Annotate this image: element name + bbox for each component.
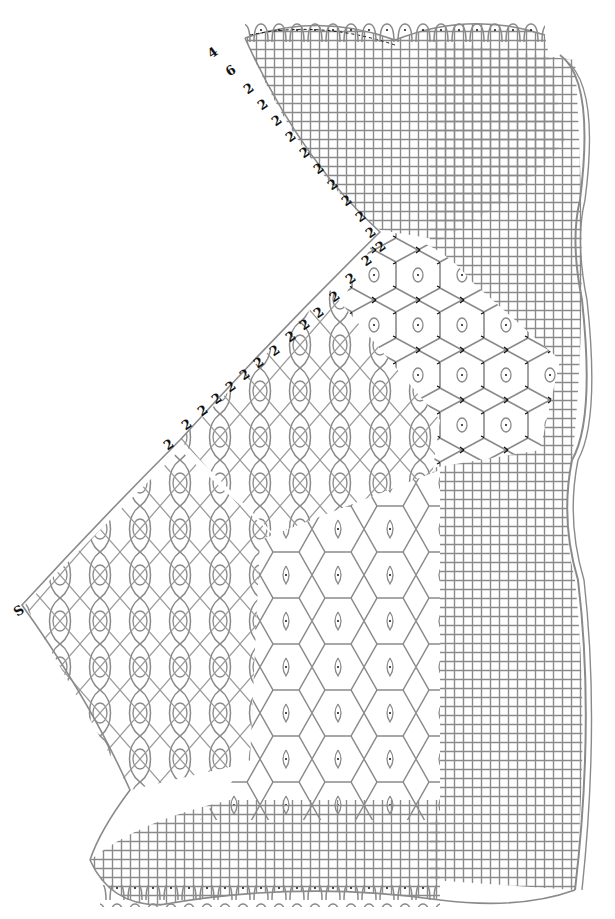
right-footside: [430, 40, 592, 890]
lace-diagram-canvas: [0, 0, 615, 919]
